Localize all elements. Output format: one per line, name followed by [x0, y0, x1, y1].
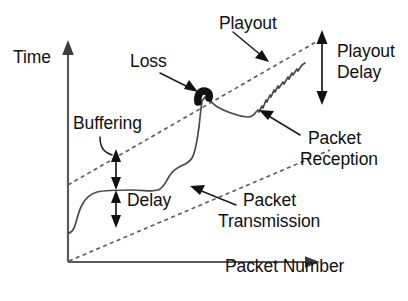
packet-reception-leader [259, 110, 300, 135]
packet-playout-delay-diagram: Time Packet Number Playout Loss Bufferin… [0, 0, 408, 301]
packet-transmission-label-line1: Packet [243, 190, 296, 210]
playout-delay-label-line2: Delay [337, 62, 381, 82]
buffering-leader [100, 137, 112, 155]
playout-delay-label-line1: Playout [337, 41, 395, 61]
delay-measure-arrow [111, 190, 121, 228]
playout-leader [233, 32, 269, 62]
y-axis-label: Time [13, 47, 51, 67]
arrow-up-icon [62, 40, 74, 55]
packet-reception-label-line2: Reception [300, 149, 378, 169]
x-axis-label: Packet Number [225, 256, 344, 276]
playout-delay-measure-arrow [317, 30, 328, 105]
packet-transmission-label-line2: Transmission [218, 211, 320, 231]
loss-leader [160, 73, 198, 92]
packet-transmission-leader [190, 185, 236, 205]
axes-group [62, 40, 320, 268]
buffering-label: Buffering [73, 113, 142, 133]
delay-label: Delay [127, 190, 171, 210]
playout-label: Playout [219, 13, 277, 33]
packet-reception-label-line1: Packet [308, 128, 361, 148]
loss-label: Loss [130, 51, 167, 71]
